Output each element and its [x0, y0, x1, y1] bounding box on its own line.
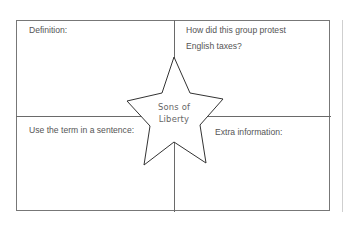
- center-term-line1: Sons of: [144, 102, 204, 114]
- center-term: Sons of Liberty: [144, 102, 204, 125]
- center-term-line2: Liberty: [144, 114, 204, 126]
